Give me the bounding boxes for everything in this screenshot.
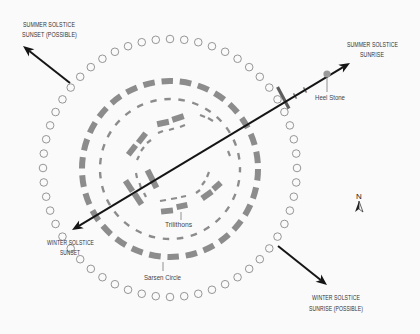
trilithon-stone [157,119,170,127]
arrow-line [29,51,70,83]
aubrey-hole [290,135,298,143]
aubrey-hole [234,273,242,281]
bluestone [136,173,137,178]
aubrey-hole [59,96,67,104]
winter-sunrise-label-line2: SUNRISE (POSSIBLE) [309,305,363,313]
heel-stone-marker [323,70,330,77]
trilithon-stone [123,179,135,193]
aubrey-hole [124,286,132,294]
arrowhead-icon [338,63,350,73]
bluestone [180,125,185,127]
aubrey-hole [124,42,132,50]
bluestone [147,140,151,143]
bluestone [208,118,213,121]
aubrey-hole [46,122,54,130]
axis-line [79,67,343,226]
north-label: N [356,192,362,201]
aubrey-hole [87,63,95,71]
aubrey-hole [274,233,282,241]
north-arrow-icon [355,201,359,212]
aubrey-hole [265,245,273,253]
aubrey-hole [286,207,294,215]
aubrey-hole [245,63,253,71]
trilithon-stone [176,202,188,210]
aubrey-hole [221,280,229,288]
aubrey-hole [52,108,60,116]
aubrey-hole [99,55,107,63]
aubrey-hole [99,273,107,281]
aubrey-hole [166,293,174,301]
summer-sunrise-label-line2: SUNRISE [360,51,384,58]
aubrey-hole [52,220,60,228]
bluestone [228,151,230,156]
aubrey-hole [290,193,298,201]
bluestone [196,190,200,193]
arrowhead-icon [72,221,84,231]
aubrey-hole [265,84,273,92]
winter-sunset-label-line2: SUNSET [60,249,80,256]
bluestone [202,181,205,185]
aubrey-hole [281,108,289,116]
north-indicator: N [355,192,363,212]
aubrey-hole [166,35,174,43]
bluestone [137,156,139,160]
aubrey-hole [39,164,47,172]
bluestone [160,200,166,201]
aubrey-hole [293,164,301,172]
heel-stone-label: Heel Stone [315,93,345,102]
stonehenge-diagram: Heel Stone Trilithons Sarsen Circle SUMM… [0,0,420,334]
trilithons-label: Trilithons [165,220,192,229]
diagram-canvas: Heel Stone Trilithons Sarsen Circle SUMM… [0,0,420,334]
bluestone [158,131,163,133]
aubrey-hole [208,42,216,50]
aubrey-hole [180,36,188,44]
aubrey-hole [208,286,216,294]
aubrey-hole [152,36,160,44]
bluestone [141,147,144,151]
bluestone [171,198,177,199]
aubrey-hole [42,135,50,143]
solstice-axis-arrow [72,63,350,230]
winter-sunset-label-line1: WINTER SOLSTICE [47,239,94,246]
aubrey-hole [46,207,54,215]
aubrey-hole [111,280,119,288]
aubrey-hole [76,73,84,81]
aubrey-hole [221,48,229,56]
aubrey-hole [67,84,75,92]
aubrey-hole [40,179,48,187]
aubrey-hole [111,48,119,56]
aubrey-hole [194,290,202,298]
aubrey-hole [234,55,242,63]
trilithon-stone [161,207,174,214]
aubrey-hole [87,265,95,273]
bluestone-circle-ring [100,99,240,239]
aubrey-hole [256,255,264,263]
aubrey-hole [40,150,48,158]
north-arrow-icon-outline [359,201,363,212]
aubrey-hole [42,193,50,201]
trilithon-stone [211,180,222,191]
aubrey-hole [286,122,294,130]
aubrey-hole [256,73,264,81]
summer-sunset-arrow [23,46,70,83]
winter-sunrise-label-line1: WINTER SOLSTICE [312,294,360,301]
summer-sunset-label-line1: SUMMER SOLSTICE [23,21,75,28]
aubrey-hole [138,290,146,298]
aubrey-hole [274,96,282,104]
aubrey-hole [138,38,146,46]
trilithon-stone [200,189,213,201]
summer-sunset-label-line2: SUNSET (POSSIBLE) [22,31,77,39]
bluestone [169,129,174,131]
aubrey-hole [152,292,160,300]
aubrey-hole [281,220,289,228]
aubrey-hole [180,292,188,300]
aubrey-hole [76,255,84,263]
aubrey-holes-ring [39,35,301,301]
aubrey-hole [292,179,300,187]
winter-sunrise-arrow [278,246,327,285]
bluestone [140,183,142,188]
bluestone [181,196,186,197]
sarsen-circle-ring [82,81,258,257]
aubrey-hole [194,38,202,46]
trilithon-stone [171,113,184,122]
